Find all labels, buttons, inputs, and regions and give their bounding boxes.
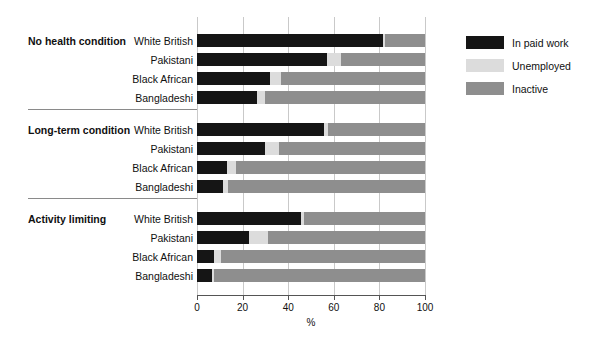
bar-segment-in-paid-work [197, 269, 212, 282]
bar-row [197, 123, 425, 136]
bar-segment-unemployed [214, 250, 221, 263]
bar-segment-in-paid-work [197, 72, 270, 85]
category-label: Black African [77, 251, 197, 263]
bar-segment-inactive [236, 161, 425, 174]
bar-row [197, 91, 425, 104]
legend-label: Unemployed [512, 60, 571, 72]
x-axis-tick-label: 60 [328, 302, 339, 313]
category-label: Black African [77, 73, 197, 85]
bar-segment-in-paid-work [197, 123, 324, 136]
bar-segment-inactive [328, 123, 425, 136]
bar-row [197, 269, 425, 282]
category-label: Pakistani [77, 232, 197, 244]
bar-row [197, 142, 425, 155]
chart-legend: In paid workUnemployedInactive [466, 31, 586, 100]
bar-row [197, 53, 425, 66]
bar-segment-inactive [228, 180, 425, 193]
bar-segment-in-paid-work [197, 91, 257, 104]
bar-row [197, 34, 425, 47]
x-axis-tick [288, 295, 289, 300]
group-separator [28, 109, 197, 110]
bar-segment-unemployed [327, 53, 341, 66]
legend-label: Inactive [512, 83, 548, 95]
legend-item: Inactive [466, 77, 586, 100]
group-separator [28, 198, 197, 199]
x-axis-title: % [307, 317, 316, 328]
legend-swatch [466, 59, 504, 72]
group-label-no-health-condition: No health condition [28, 35, 126, 47]
bar-segment-inactive [221, 250, 425, 263]
x-axis-tick-label: 20 [237, 302, 248, 313]
category-label: Black African [77, 162, 197, 174]
bar-segment-unemployed [249, 231, 267, 244]
bar-segment-in-paid-work [197, 212, 301, 225]
bar-segment-unemployed [257, 91, 265, 104]
legend-swatch [466, 82, 504, 95]
bar-segment-in-paid-work [197, 231, 249, 244]
legend-item: Unemployed [466, 54, 586, 77]
group-label-activity-limiting: Activity limiting [28, 213, 106, 225]
category-label: Pakistani [77, 143, 197, 155]
category-label: Bangladeshi [77, 270, 197, 282]
group-label-long-term-condition: Long-term condition [28, 124, 130, 136]
bar-segment-in-paid-work [197, 53, 327, 66]
bar-segment-in-paid-work [197, 250, 214, 263]
bar-segment-in-paid-work [197, 142, 265, 155]
bar-row [197, 212, 425, 225]
bar-row [197, 161, 425, 174]
gridline [425, 17, 426, 295]
bar-segment-unemployed [270, 72, 281, 85]
legend-label: In paid work [512, 37, 569, 49]
x-axis-line [197, 295, 425, 296]
bar-row [197, 231, 425, 244]
bar-segment-in-paid-work [197, 161, 227, 174]
legend-item: In paid work [466, 31, 586, 54]
x-axis-tick [197, 295, 198, 300]
x-axis-tick [379, 295, 380, 300]
category-label: Pakistani [77, 54, 197, 66]
bar-row [197, 180, 425, 193]
bar-segment-unemployed [227, 161, 236, 174]
bar-row [197, 72, 425, 85]
x-axis-tick [243, 295, 244, 300]
x-axis-tick-label: 0 [194, 302, 200, 313]
bar-segment-unemployed [265, 142, 279, 155]
x-axis-tick [425, 295, 426, 300]
category-label-column: White BritishPakistaniBlack AfricanBangl… [0, 0, 197, 341]
category-label: Bangladeshi [77, 92, 197, 104]
x-axis-tick [334, 295, 335, 300]
bar-segment-inactive [268, 231, 425, 244]
bar-segment-inactive [304, 212, 425, 225]
bar-segment-inactive [279, 142, 425, 155]
legend-swatch [466, 36, 504, 49]
bar-segment-inactive [385, 34, 425, 47]
x-axis-tick-label: 100 [417, 302, 434, 313]
x-axis-tick-label: 80 [374, 302, 385, 313]
bar-segment-in-paid-work [197, 180, 223, 193]
bar-segment-inactive [281, 72, 425, 85]
bar-segment-inactive [265, 91, 425, 104]
x-axis-tick-label: 40 [283, 302, 294, 313]
bar-segment-in-paid-work [197, 34, 383, 47]
bar-segment-inactive [341, 53, 425, 66]
bar-row [197, 250, 425, 263]
bar-segment-inactive [214, 269, 425, 282]
category-label: Bangladeshi [77, 181, 197, 193]
grouped-stacked-bar-chart: White BritishPakistaniBlack AfricanBangl… [0, 0, 590, 341]
plot-area [197, 17, 425, 295]
